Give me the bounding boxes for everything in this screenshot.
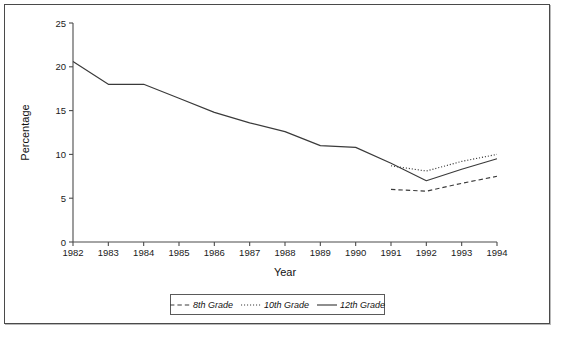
- x-tick-label: 1984: [133, 247, 154, 258]
- figure-footnote: [11, 333, 551, 337]
- line-chart-canvas: 0510152025 19821983198419851986198719881…: [5, 5, 551, 325]
- x-axis-ticks: 1982198319841985198619871988198919901991…: [62, 242, 507, 258]
- x-axis-title: Year: [274, 266, 297, 278]
- legend-entry: 10th Grade: [241, 300, 309, 310]
- x-tick-label: 1992: [416, 247, 437, 258]
- x-tick-label: 1988: [274, 247, 295, 258]
- chart-figure: 0510152025 19821983198419851986198719881…: [5, 5, 551, 325]
- y-tick-label: 15: [55, 105, 66, 116]
- axes: [73, 23, 497, 242]
- legend-swatch-dotted-icon: [241, 301, 261, 309]
- series-line-10th-grade: [391, 154, 497, 171]
- legend-entry: 8th Grade: [170, 300, 233, 310]
- x-tick-label: 1985: [168, 247, 189, 258]
- legend-swatch-solid-icon: [317, 301, 337, 309]
- legend-label: 10th Grade: [264, 300, 309, 310]
- y-tick-label: 20: [55, 61, 66, 72]
- x-tick-label: 1983: [98, 247, 119, 258]
- legend-swatch-dashed-icon: [170, 301, 190, 309]
- y-axis-ticks: 0510152025: [55, 18, 73, 248]
- x-tick-label: 1991: [380, 247, 401, 258]
- legend-label: 8th Grade: [193, 300, 233, 310]
- figure-frame: 0510152025 19821983198419851986198719881…: [4, 4, 550, 324]
- data-series-group: [73, 62, 497, 192]
- chart-legend: 8th Grade10th Grade12th Grade: [170, 294, 385, 315]
- legend-entry: 12th Grade: [317, 300, 385, 310]
- series-line-12th-grade: [73, 62, 497, 181]
- x-tick-label: 1987: [239, 247, 260, 258]
- x-tick-label: 1986: [204, 247, 225, 258]
- y-tick-label: 10: [55, 149, 66, 160]
- x-tick-label: 1990: [345, 247, 366, 258]
- x-tick-label: 1989: [310, 247, 331, 258]
- y-tick-label: 5: [61, 193, 66, 204]
- y-tick-label: 25: [55, 18, 66, 29]
- y-tick-label: 0: [61, 237, 66, 248]
- x-tick-label: 1993: [451, 247, 472, 258]
- legend-label: 12th Grade: [340, 300, 385, 310]
- x-tick-label: 1994: [486, 247, 507, 258]
- y-axis-title: Percentage: [19, 104, 31, 160]
- series-line-8th-grade: [391, 176, 497, 191]
- x-tick-label: 1982: [62, 247, 83, 258]
